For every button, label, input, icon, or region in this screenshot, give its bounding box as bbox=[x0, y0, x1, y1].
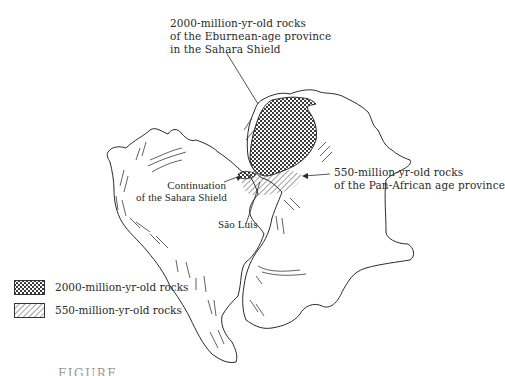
legend-item-2000: 2000-million-yr-old rocks bbox=[14, 279, 189, 295]
eburnean-region bbox=[250, 97, 317, 176]
figure-caption-truncated: FIGURE ... bbox=[58, 367, 458, 376]
continuation-label-line2: of the Sahara Shield bbox=[136, 191, 227, 204]
crosshatch-swatch-icon bbox=[14, 280, 45, 295]
eburnean-label-line2: of the Eburnean-age province bbox=[170, 30, 331, 43]
eburnean-label-line3: in the Sahara Shield bbox=[170, 43, 331, 56]
legend-label-2000: 2000-million-yr-old rocks bbox=[55, 281, 189, 293]
pan-african-label: 550-million-yr-old rocks of the Pan-Afri… bbox=[334, 166, 505, 192]
arrowhead-pan bbox=[302, 173, 308, 179]
south-america-outline bbox=[107, 129, 264, 363]
sao-luis-label: São Luis bbox=[218, 218, 258, 231]
diagonal-hatch-swatch-icon bbox=[14, 303, 45, 318]
legend-item-550: 550-million-yr-old rocks bbox=[14, 302, 182, 318]
pan-african-label-line2: of the Pan-African age province bbox=[334, 179, 505, 192]
caption-text: FIGURE ... bbox=[58, 367, 458, 376]
continuation-label-2: of the Sahara Shield bbox=[136, 191, 227, 204]
pan-african-label-line1: 550-million-yr-old rocks bbox=[334, 166, 505, 179]
eburnean-leader bbox=[226, 52, 258, 104]
eburnean-label-line1: 2000-million-yr-old rocks bbox=[170, 17, 331, 30]
legend-label-550: 550-million-yr-old rocks bbox=[55, 304, 182, 316]
eburnean-label: 2000-million-yr-old rocks of the Eburnea… bbox=[170, 17, 331, 56]
